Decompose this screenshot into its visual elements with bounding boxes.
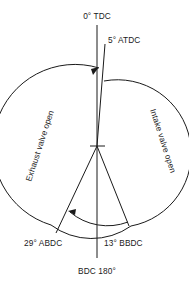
- intake-valve-open-label: Intake valve open: [148, 108, 178, 175]
- exhaust-arrow-up-icon: [91, 67, 99, 75]
- atdc-5-degree-line: [97, 44, 105, 146]
- atdc-label: 5° ATDC: [108, 35, 140, 45]
- tdc-label: 0° TDC: [83, 11, 111, 21]
- abdc-29-degree-line: [56, 146, 97, 233]
- intake-valve-open-arc: [104, 80, 189, 226]
- bbdc-label: 13° BBDC: [104, 238, 143, 248]
- abdc-label: 29° ABDC: [24, 238, 62, 248]
- bbdc-13-degree-line: [97, 146, 129, 226]
- bdc-measurement-arc: [70, 212, 128, 226]
- bdc-label: BDC 180°: [78, 266, 116, 276]
- exhaust-valve-open-label: Exhaust valve open: [23, 109, 56, 183]
- valve-timing-canvas: 0° TDC 5° ATDC BDC 180° 29° ABDC 13° BBD…: [0, 0, 189, 282]
- exhaust-valve-open-arc: [0, 64, 99, 225]
- valve-timing-diagram: 0° TDC 5° ATDC BDC 180° 29° ABDC 13° BBD…: [0, 0, 189, 282]
- circle-bottom-arc: [51, 225, 131, 239]
